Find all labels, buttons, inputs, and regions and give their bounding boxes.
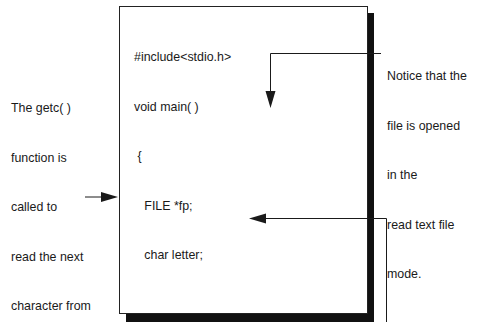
getc-arrow-icon (85, 192, 118, 202)
eof-arrow-icon (249, 214, 387, 323)
fopen-arrow-icon (266, 54, 382, 109)
callout-arrows (0, 0, 483, 330)
